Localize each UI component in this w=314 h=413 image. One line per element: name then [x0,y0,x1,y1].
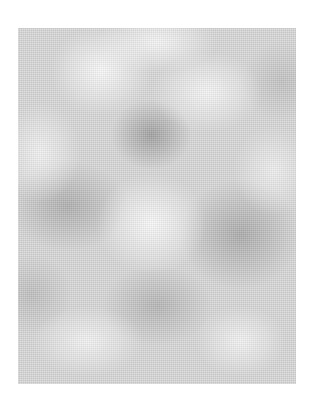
cloud-noise-texture [18,28,296,384]
image-canvas [0,0,314,413]
dither-overlay [18,28,296,384]
